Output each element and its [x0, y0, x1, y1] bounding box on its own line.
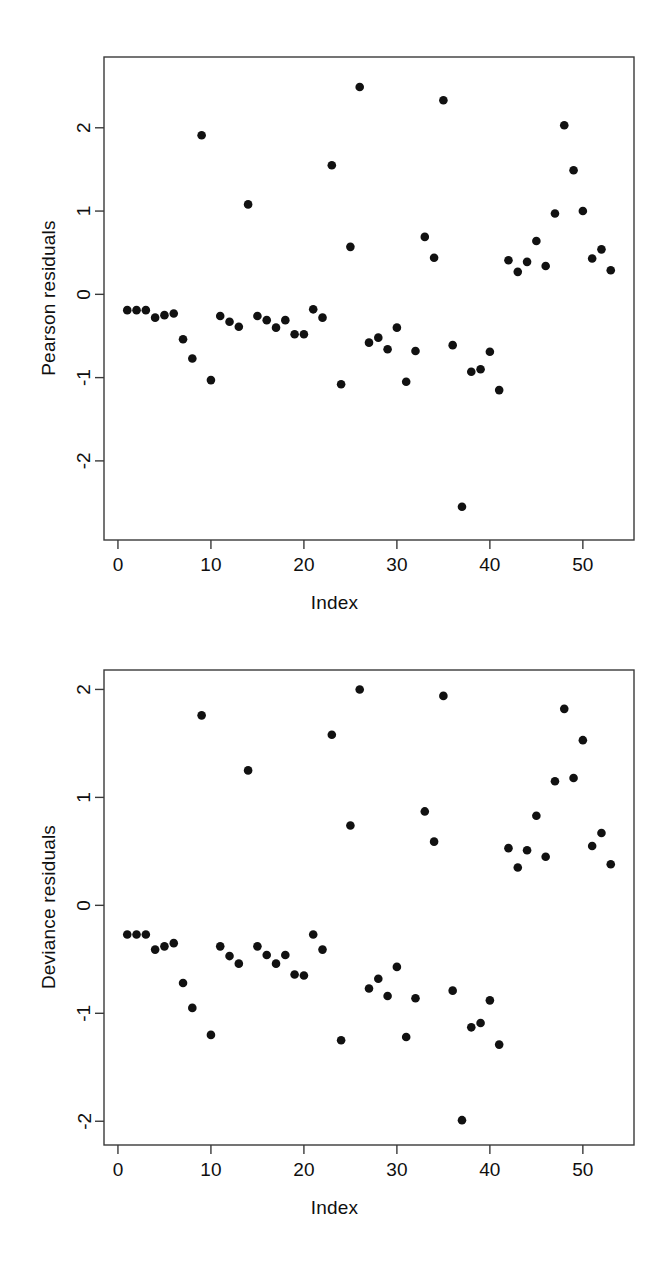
x-tick-label: 30: [386, 554, 407, 575]
data-point: [374, 974, 383, 983]
x-tick-label: 40: [479, 554, 500, 575]
data-point: [355, 685, 364, 694]
data-point: [430, 253, 439, 262]
data-point: [169, 939, 178, 948]
y-tick-label: -1: [74, 1005, 95, 1022]
data-point: [216, 312, 225, 321]
data-point: [560, 121, 569, 130]
data-point: [123, 930, 132, 939]
y-tick-label: -2: [74, 452, 95, 469]
data-point: [225, 952, 234, 961]
data-point: [402, 377, 411, 386]
data-point: [495, 386, 504, 395]
y-tick-label: 1: [74, 792, 95, 803]
deviance-residuals-figure: 01020304050-2-1012 Deviance residuals In…: [0, 640, 669, 1240]
data-point: [579, 736, 588, 745]
deviance-y-axis-title: Deviance residuals: [38, 807, 60, 1007]
data-point: [300, 330, 309, 339]
data-point: [281, 316, 290, 325]
data-point: [235, 959, 244, 968]
data-point: [541, 852, 550, 861]
data-point: [328, 161, 337, 170]
data-point: [448, 986, 457, 995]
data-point: [142, 306, 151, 315]
data-point: [393, 963, 402, 972]
data-point: [402, 1033, 411, 1042]
data-points: [123, 685, 615, 1124]
data-point: [476, 1019, 485, 1028]
plot-frame: [104, 57, 634, 540]
data-point: [476, 365, 485, 374]
data-point: [290, 330, 299, 339]
y-tick-label: -1: [74, 369, 95, 386]
data-point: [606, 860, 615, 869]
data-point: [123, 306, 132, 315]
data-point: [448, 341, 457, 350]
data-point: [262, 951, 271, 960]
data-point: [458, 502, 467, 511]
data-point: [383, 345, 392, 354]
data-point: [197, 711, 206, 720]
data-point: [346, 243, 355, 252]
data-point: [374, 333, 383, 342]
data-point: [142, 930, 151, 939]
data-point: [318, 313, 327, 322]
x-tick-label: 20: [293, 1159, 314, 1180]
x-tick-label: 10: [200, 1159, 221, 1180]
data-point: [486, 996, 495, 1005]
data-point: [523, 258, 532, 267]
data-point: [411, 994, 420, 1003]
data-point: [160, 942, 169, 951]
data-point: [207, 376, 216, 385]
x-tick-label: 50: [572, 554, 593, 575]
data-point: [207, 1031, 216, 1040]
data-point: [253, 312, 262, 321]
data-point: [272, 959, 281, 968]
y-tick-label: 1: [74, 206, 95, 217]
data-point: [309, 930, 318, 939]
data-point: [188, 1004, 197, 1013]
data-point: [597, 829, 606, 838]
data-point: [560, 705, 569, 714]
pearson-x-axis-title: Index: [0, 592, 669, 614]
data-point: [606, 266, 615, 275]
data-point: [244, 200, 253, 209]
data-point: [439, 96, 448, 105]
pearson-residuals-figure: 01020304050-2-1012 Pearson residuals Ind…: [0, 0, 669, 640]
data-point: [253, 942, 262, 951]
data-point: [151, 945, 160, 954]
data-point: [504, 844, 513, 853]
data-point: [337, 1036, 346, 1045]
data-point: [597, 245, 606, 254]
pearson-y-axis-title: Pearson residuals: [38, 198, 60, 398]
data-point: [262, 316, 271, 325]
data-point: [318, 945, 327, 954]
data-point: [420, 807, 429, 816]
x-tick-label: 40: [479, 1159, 500, 1180]
data-point: [513, 863, 522, 872]
data-point: [337, 380, 346, 389]
data-point: [290, 970, 299, 979]
y-tick-label: -2: [74, 1113, 95, 1130]
data-point: [300, 971, 309, 980]
data-point: [467, 1023, 476, 1032]
data-point: [467, 367, 476, 376]
data-point: [169, 309, 178, 318]
data-point: [179, 335, 188, 344]
y-tick-label: 2: [74, 122, 95, 133]
x-tick-label: 30: [386, 1159, 407, 1180]
data-point: [532, 811, 541, 820]
data-points: [123, 83, 615, 511]
y-tick-label: 0: [74, 900, 95, 911]
data-point: [188, 354, 197, 363]
pearson-residuals-plot: 01020304050-2-1012: [0, 0, 669, 640]
data-point: [151, 313, 160, 322]
data-point: [588, 254, 597, 263]
data-point: [430, 837, 439, 846]
data-point: [132, 306, 141, 315]
x-tick-label: 20: [293, 554, 314, 575]
data-point: [486, 348, 495, 357]
data-point: [569, 166, 578, 175]
x-tick-label: 10: [200, 554, 221, 575]
data-point: [216, 942, 225, 951]
